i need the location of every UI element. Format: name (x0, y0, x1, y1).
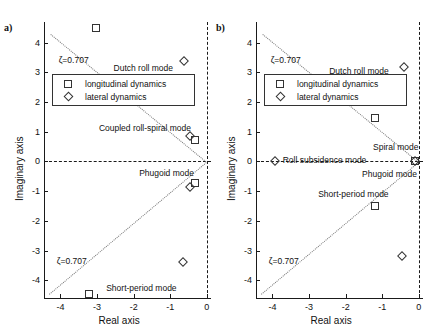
legend-label: lateral dynamics (291, 92, 358, 102)
y-tick (44, 72, 48, 73)
x-tick-label: -1 (166, 302, 174, 312)
y-tick (44, 221, 48, 222)
legend-item: longitudinal dynamics (269, 77, 402, 90)
zero-real-reference-line (207, 22, 208, 298)
x-tick (60, 294, 61, 298)
x-tick-label: 0 (416, 302, 421, 312)
y-tick-label: 4 (234, 38, 252, 48)
y-axis-line (256, 22, 257, 298)
data-point-lateral (397, 251, 407, 261)
x-tick-label: -3 (93, 302, 101, 312)
x-tick (170, 294, 171, 298)
x-tick-label: -4 (56, 302, 64, 312)
x-tick-label: -4 (268, 302, 276, 312)
data-point-longitudinal (191, 136, 199, 144)
x-axis-line (44, 298, 211, 299)
x-tick (272, 294, 273, 298)
y-tick (256, 102, 260, 103)
y-tick-label: -2 (22, 216, 40, 226)
mode-annotation: Phugoid mode (139, 168, 194, 178)
mode-annotation: Phugoid mode (362, 169, 417, 179)
x-tick (97, 294, 98, 298)
x-tick-label: -2 (342, 302, 350, 312)
y-tick (256, 72, 260, 73)
y-axis-title: Imaginary axis (226, 137, 237, 201)
mode-annotation: Coupled roll-spiral mode (99, 123, 191, 133)
y-tick (44, 251, 48, 252)
damping-ratio-label-2: ζ=0.707 (57, 256, 87, 266)
y-tick (44, 191, 48, 192)
mode-annotation: Short-period mode (106, 283, 176, 293)
y-tick (44, 102, 48, 103)
y-tick (44, 43, 48, 44)
zero-imaginary-reference-line (44, 161, 211, 162)
panel-letter-b: b) (216, 22, 225, 33)
x-tick (309, 294, 310, 298)
legend: longitudinal dynamicslateral dynamics (264, 74, 407, 106)
x-tick (346, 294, 347, 298)
data-point-lateral (399, 62, 409, 72)
data-point-longitudinal (371, 114, 379, 122)
data-point-lateral (179, 56, 189, 66)
data-point-longitudinal (85, 290, 93, 298)
y-tick-label: 3 (22, 67, 40, 77)
square-marker-icon (57, 80, 79, 88)
x-tick-label: 0 (204, 302, 209, 312)
y-axis-title: Imaginary axis (14, 137, 25, 201)
y-tick (44, 132, 48, 133)
legend-label: lateral dynamics (79, 92, 146, 102)
panel-letter-a: a) (4, 22, 12, 33)
x-tick (134, 294, 135, 298)
data-point-longitudinal (92, 24, 100, 32)
mode-annotation: Short-period mode (318, 189, 388, 199)
x-axis-title: Real axis (311, 315, 352, 326)
damping-ratio-label-2: ζ=0.707 (269, 256, 299, 266)
x-tick (382, 294, 383, 298)
y-tick-label: 1 (234, 127, 252, 137)
y-tick-label: 2 (22, 97, 40, 107)
damping-ratio-label-1: ζ=0.707 (271, 55, 301, 65)
y-tick-label: 4 (22, 38, 40, 48)
damping-ratio-label-1: ζ=0.707 (59, 55, 89, 65)
mode-annotation: Spiral mode (373, 142, 418, 152)
y-tick (256, 191, 260, 192)
legend-label: longitudinal dynamics (79, 79, 166, 89)
y-tick-label: 3 (234, 67, 252, 77)
root-locus-figure: a)-4-3-2-1043210-1-2-3-4Real axisImagina… (0, 0, 425, 332)
legend-item: lateral dynamics (269, 90, 402, 103)
x-axis-title: Real axis (99, 315, 140, 326)
y-axis-line (44, 22, 45, 298)
x-tick-label: -1 (378, 302, 386, 312)
square-marker-icon (269, 80, 291, 88)
mode-annotation: Dutch roll mode (114, 63, 174, 73)
y-tick-label: -4 (22, 275, 40, 285)
panel-b: b)-4-3-2-1043210-1-2-3-4Real axisImagina… (212, 0, 424, 332)
y-tick-label: -2 (234, 216, 252, 226)
y-tick (256, 280, 260, 281)
x-tick-label: -3 (305, 302, 313, 312)
y-tick-label: 1 (22, 127, 40, 137)
y-tick-label: -3 (22, 246, 40, 256)
y-tick (256, 251, 260, 252)
diamond-marker-icon (57, 93, 79, 100)
legend-label: longitudinal dynamics (291, 79, 378, 89)
panel-a: a)-4-3-2-1043210-1-2-3-4Real axisImagina… (0, 0, 212, 332)
y-tick-label: -3 (234, 246, 252, 256)
data-point-lateral (178, 257, 188, 267)
zeta-line-lower (49, 161, 207, 294)
mode-annotation: Roll subsidence mode (283, 155, 367, 165)
y-tick (256, 221, 260, 222)
x-tick-label: -2 (130, 302, 138, 312)
y-tick (256, 132, 260, 133)
y-tick-label: -4 (234, 275, 252, 285)
legend-item: lateral dynamics (57, 90, 190, 103)
legend-item: longitudinal dynamics (57, 77, 190, 90)
diamond-marker-icon (269, 93, 291, 100)
data-point-lateral (270, 157, 280, 167)
y-tick (256, 43, 260, 44)
y-tick-label: 2 (234, 97, 252, 107)
x-axis-line (256, 298, 423, 299)
legend: longitudinal dynamicslateral dynamics (52, 74, 195, 106)
y-tick (44, 280, 48, 281)
data-point-longitudinal (371, 202, 379, 210)
